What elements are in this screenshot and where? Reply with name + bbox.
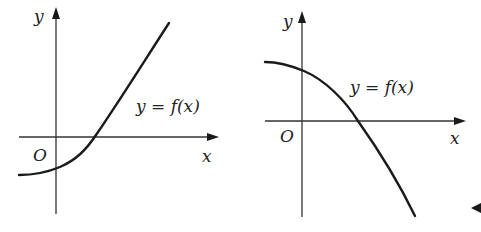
left-y-axis-arrow-icon	[52, 7, 60, 19]
right-y-axis-arrow-icon	[298, 11, 306, 23]
right-y-label: y	[282, 11, 293, 31]
left-origin-label: O	[33, 145, 47, 165]
left-graph: y x O y = f(x)	[19, 6, 219, 214]
right-curve-label: y = f(x)	[349, 77, 414, 97]
edge-arrow-icon	[471, 203, 481, 213]
right-graph: y x O y = f(x)	[265, 11, 466, 217]
right-origin-label: O	[280, 126, 294, 146]
right-x-axis-arrow-icon	[454, 117, 466, 125]
left-x-axis-arrow-icon	[207, 133, 219, 141]
left-y-label: y	[33, 6, 44, 26]
left-x-label: x	[202, 146, 212, 166]
function-graphs-diagram: y x O y = f(x) y x O y = f(x)	[0, 0, 481, 232]
left-curve-label: y = f(x)	[135, 96, 200, 116]
right-x-label: x	[450, 128, 460, 148]
